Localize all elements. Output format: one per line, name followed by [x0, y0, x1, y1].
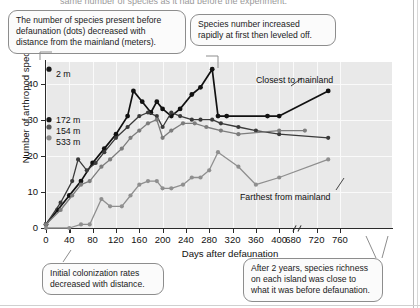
data-point	[169, 129, 173, 133]
data-point	[88, 222, 92, 226]
marker-label-172m: 172 m	[56, 115, 80, 125]
marker-label-154m: 154 m	[56, 126, 80, 136]
callout-line: what it was before defaunation.	[251, 285, 375, 296]
data-point	[126, 125, 130, 129]
data-point	[131, 89, 136, 94]
data-point	[190, 118, 194, 122]
annotation-farthest-from-mainland: Farthest from mainland	[240, 192, 330, 202]
data-point	[277, 132, 281, 136]
data-point	[198, 118, 202, 122]
data-point	[128, 193, 132, 197]
callout-rapid-increase: Species number increased rapidly at firs…	[190, 14, 336, 46]
data-point	[44, 226, 48, 230]
data-point	[204, 125, 208, 129]
data-point	[128, 136, 132, 140]
data-point	[94, 161, 98, 165]
callout-before-defaunation: The number of species present before def…	[8, 10, 186, 54]
callout-line: Initial colonization rates	[50, 268, 156, 279]
data-point	[236, 125, 240, 129]
data-point	[161, 125, 165, 129]
data-point	[79, 183, 83, 187]
data-point	[155, 114, 159, 118]
series-line-154m	[46, 120, 305, 225]
data-point	[254, 183, 258, 187]
data-point	[99, 165, 103, 169]
data-point	[161, 186, 165, 190]
data-point	[102, 150, 106, 154]
data-point	[137, 114, 141, 118]
series-line-172m	[46, 113, 328, 225]
data-point	[178, 107, 183, 112]
data-point	[79, 222, 83, 226]
pre-defaunation-marker-2m	[46, 67, 51, 72]
data-point	[59, 208, 63, 212]
data-point	[70, 179, 74, 183]
data-point	[44, 222, 48, 226]
data-point	[76, 157, 80, 161]
data-point	[137, 183, 141, 187]
data-point	[210, 67, 215, 72]
data-point	[155, 179, 159, 183]
data-point	[224, 114, 229, 119]
data-point	[210, 118, 214, 122]
data-point	[85, 168, 89, 172]
series-line-533m	[46, 152, 328, 228]
callout-line: on each island was close to	[251, 274, 375, 285]
data-point	[169, 186, 173, 190]
callout-line: rapidly at first then leveled off.	[198, 30, 328, 41]
annotation-closest-to-mainland: Closest to mainland	[256, 75, 333, 85]
callout-line: distance from the mainland (meters).	[16, 37, 178, 48]
data-point	[161, 136, 165, 140]
data-point	[59, 201, 63, 205]
data-point	[178, 114, 182, 118]
data-point	[108, 157, 112, 161]
data-point	[114, 136, 118, 140]
pre-defaunation-marker-154m	[46, 124, 51, 129]
pre-defaunation-marker-533m	[46, 135, 51, 140]
callout-line: decreased with distance.	[50, 279, 156, 290]
data-point	[154, 99, 159, 104]
data-point	[303, 129, 307, 133]
data-point	[193, 121, 197, 125]
data-point	[219, 129, 223, 133]
data-point	[146, 179, 150, 183]
data-point	[108, 204, 112, 208]
data-point	[216, 150, 220, 154]
callout-line: After 2 years, species richness	[251, 263, 375, 274]
data-point	[88, 179, 92, 183]
data-point	[277, 114, 282, 119]
callout-line: defaunation (dots) decreased with	[16, 26, 178, 37]
data-point	[219, 121, 223, 125]
data-point	[326, 89, 331, 94]
data-point	[67, 226, 71, 230]
chart-figure: same number of species as it had before …	[0, 0, 420, 308]
data-point	[189, 92, 194, 97]
data-point	[146, 121, 150, 125]
data-point	[99, 197, 103, 201]
data-point	[137, 129, 141, 133]
callout-after-two-years: After 2 years, species richness on each …	[243, 258, 383, 302]
marker-label-2m: 2 m	[56, 69, 71, 79]
callout-line: Species number increased	[198, 19, 328, 30]
data-point	[181, 121, 185, 125]
pre-defaunation-marker-172m	[46, 117, 51, 122]
data-point	[326, 136, 330, 140]
data-point	[181, 183, 185, 187]
data-point	[236, 165, 240, 169]
data-point	[277, 129, 281, 133]
data-point	[160, 107, 165, 112]
data-point	[190, 175, 194, 179]
annotation-leader-farthest	[336, 178, 344, 190]
data-point	[125, 114, 130, 119]
data-point	[140, 99, 145, 104]
data-point	[265, 114, 270, 119]
data-point	[70, 193, 74, 197]
data-point	[120, 204, 124, 208]
data-point	[198, 175, 202, 179]
data-point	[207, 168, 211, 172]
data-point	[277, 175, 281, 179]
data-point	[146, 110, 150, 114]
data-point	[216, 114, 221, 119]
data-point	[236, 132, 240, 136]
callout-line: The number of species present before	[16, 15, 178, 26]
